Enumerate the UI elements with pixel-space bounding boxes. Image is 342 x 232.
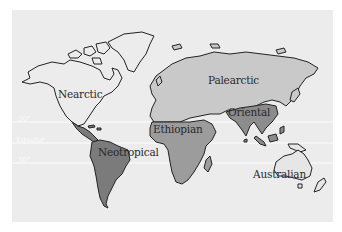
region-label-neotropical: Neotropical bbox=[98, 146, 159, 158]
latitude-label-30s: 30° bbox=[18, 156, 30, 164]
region-label-australian: Australian bbox=[253, 168, 306, 180]
region-label-nearctic: Nearctic bbox=[58, 88, 102, 100]
region-label-oriental: Oriental bbox=[228, 106, 270, 118]
island-sumatra bbox=[254, 136, 266, 146]
island-arctic-asia bbox=[276, 48, 286, 54]
island-arctic-2 bbox=[84, 46, 96, 56]
island-arctic-1 bbox=[68, 50, 82, 58]
island-philippines bbox=[280, 126, 284, 134]
island-arctic-europe-1 bbox=[172, 44, 182, 50]
island-caribbean-1 bbox=[88, 125, 95, 128]
latitude-label-30n: 30° bbox=[18, 115, 30, 123]
island-arctic-3 bbox=[96, 42, 110, 54]
island-arctic-europe-2 bbox=[210, 44, 220, 48]
island-sri-lanka bbox=[244, 139, 247, 142]
world-map bbox=[0, 0, 342, 232]
latitude-label-equator: Equator bbox=[16, 136, 45, 144]
island-arctic-4 bbox=[92, 58, 102, 64]
island-new-zealand bbox=[314, 178, 326, 192]
landmass-greenland bbox=[108, 32, 154, 72]
island-borneo bbox=[268, 134, 278, 142]
region-label-palearctic: Palearctic bbox=[208, 74, 259, 86]
island-caribbean-2 bbox=[97, 128, 101, 130]
island-tasmania bbox=[298, 184, 302, 188]
island-madagascar bbox=[204, 156, 212, 172]
region-label-ethiopian: Ethiopian bbox=[153, 123, 203, 135]
